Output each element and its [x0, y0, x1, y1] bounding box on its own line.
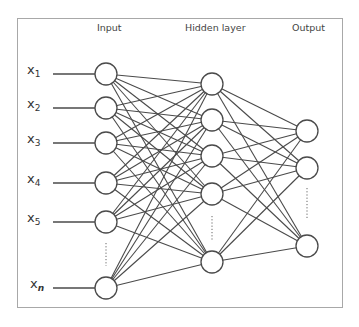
connection-line — [212, 131, 307, 194]
hidden-neuron — [201, 183, 223, 205]
input-neuron — [95, 97, 117, 119]
input-neuron — [95, 277, 117, 299]
output-neuron — [296, 120, 318, 142]
connection-line — [106, 74, 212, 84]
output-neuron — [296, 235, 318, 257]
hidden-neuron — [201, 251, 223, 273]
hidden-neuron — [201, 109, 223, 131]
input-neuron — [95, 211, 117, 233]
connection-line — [106, 156, 212, 288]
connection-line — [106, 120, 212, 183]
connection-line — [212, 120, 307, 246]
input-neuron — [95, 63, 117, 85]
neurons — [95, 63, 318, 299]
connection-line — [212, 131, 307, 156]
connection-line — [212, 120, 307, 131]
input-arrows — [53, 74, 95, 288]
hidden-neuron — [201, 73, 223, 95]
connection-line — [106, 262, 212, 288]
connection-line — [212, 131, 307, 262]
connection-line — [106, 222, 212, 262]
input-neuron — [95, 172, 117, 194]
connection-line — [212, 156, 307, 246]
connection-line — [212, 194, 307, 246]
connection-line — [106, 143, 212, 262]
input-neuron — [95, 132, 117, 154]
connection-line — [212, 84, 307, 246]
connection-line — [212, 168, 307, 194]
hidden-neuron — [201, 145, 223, 167]
neural-network-graph — [0, 0, 359, 327]
connection-line — [106, 156, 212, 222]
output-neuron — [296, 157, 318, 179]
connection-line — [106, 120, 212, 222]
